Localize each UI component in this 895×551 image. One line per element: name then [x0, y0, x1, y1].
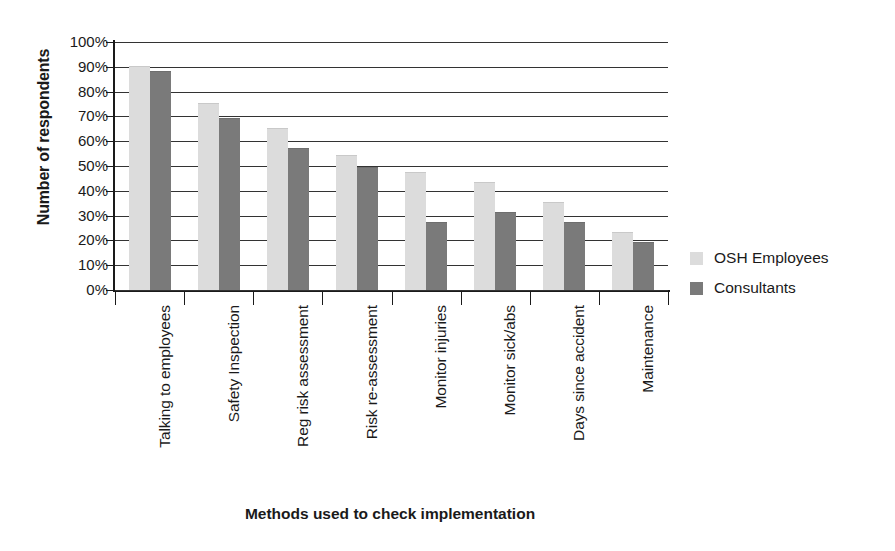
bar-osh-employees — [405, 172, 426, 290]
bar-group — [253, 42, 322, 290]
bars-layer — [115, 42, 668, 290]
bar-consultants — [150, 71, 171, 290]
bar-osh-employees — [198, 103, 219, 290]
bar-osh-employees — [612, 232, 633, 290]
y-axis-tick-labels: 100%90%80%70%60%50%40%30%20%10%0% — [58, 42, 108, 290]
y-axis-tick-label: 10% — [58, 257, 108, 272]
y-axis-tick-mark — [106, 290, 115, 291]
bar-consultants — [564, 222, 585, 290]
bar-osh-employees — [543, 202, 564, 290]
y-axis-tick-label: 80% — [58, 84, 108, 99]
x-axis-tick-mark — [461, 291, 462, 305]
legend-swatch-icon — [690, 282, 703, 295]
bar-consultants — [357, 167, 378, 290]
x-axis-tick-mark — [392, 291, 393, 305]
bar-group — [115, 42, 184, 290]
legend-swatch-icon — [690, 252, 703, 265]
y-axis-tick-label: 70% — [58, 108, 108, 123]
y-axis-tick-mark — [106, 265, 115, 266]
y-axis-tick-label: 20% — [58, 232, 108, 247]
x-axis-category-label: Risk re-assessment — [363, 305, 381, 439]
x-axis-tick-mark — [668, 291, 669, 305]
bar-osh-employees — [129, 66, 150, 290]
bar-osh-employees — [474, 182, 495, 290]
legend-label: Consultants — [714, 279, 796, 297]
x-axis-tick-mark — [599, 291, 600, 305]
x-axis-tick-mark — [184, 291, 185, 305]
y-axis-tick-label: 30% — [58, 208, 108, 223]
x-axis-category-label: Maintenance — [639, 305, 657, 393]
bar-consultants — [288, 148, 309, 290]
y-axis-tick-label: 0% — [58, 282, 108, 297]
y-axis-tick-mark — [106, 191, 115, 192]
bar-group — [599, 42, 668, 290]
x-axis-category-label: Days since accident — [570, 305, 588, 441]
x-axis-category-label: Talking to employees — [156, 305, 174, 448]
x-axis-category-label: Monitor injuries — [432, 305, 450, 409]
bar-group — [461, 42, 530, 290]
y-axis-tick-mark — [106, 141, 115, 142]
legend-item: OSH Employees — [690, 243, 829, 273]
y-axis-title: Number of respondents — [35, 27, 53, 247]
y-axis-tick-mark — [106, 240, 115, 241]
y-axis-tick-label: 60% — [58, 133, 108, 148]
y-axis-tick-mark — [106, 116, 115, 117]
bar-osh-employees — [336, 155, 357, 290]
x-axis-tick-mark — [253, 291, 254, 305]
legend-item: Consultants — [690, 273, 829, 303]
y-axis-tick-label: 40% — [58, 183, 108, 198]
bar-consultants — [219, 118, 240, 290]
y-axis-tick-mark — [106, 92, 115, 93]
y-axis-tick-mark — [106, 216, 115, 217]
bar-consultants — [495, 212, 516, 290]
bar-osh-employees — [267, 128, 288, 290]
x-axis-category-label: Monitor sick/abs — [501, 305, 519, 415]
legend: OSH EmployeesConsultants — [690, 243, 829, 303]
bar-group — [184, 42, 253, 290]
bar-consultants — [426, 222, 447, 290]
legend-label: OSH Employees — [714, 249, 829, 267]
bar-group — [392, 42, 461, 290]
y-axis-tick-mark — [106, 42, 115, 43]
bar-chart: Number of respondents 100%90%80%70%60%50… — [0, 0, 895, 551]
y-axis-tick-label: 100% — [58, 34, 108, 49]
bar-group — [530, 42, 599, 290]
x-axis-category-labels: Talking to employeesSafety InspectionReg… — [115, 305, 668, 495]
y-axis-tick-mark — [106, 67, 115, 68]
x-axis-category-label: Safety Inspection — [225, 305, 243, 422]
y-axis-tick-label: 90% — [58, 59, 108, 74]
y-axis-tick-mark — [106, 166, 115, 167]
x-axis-tick-mark — [530, 291, 531, 305]
y-axis-tick-label: 50% — [58, 158, 108, 173]
x-axis-tick-mark — [115, 291, 116, 305]
bar-group — [322, 42, 391, 290]
bar-consultants — [633, 242, 654, 290]
x-axis-title: Methods used to check implementation — [100, 505, 680, 523]
x-axis-category-label: Reg risk assessment — [294, 305, 312, 447]
x-axis-tick-mark — [322, 291, 323, 305]
